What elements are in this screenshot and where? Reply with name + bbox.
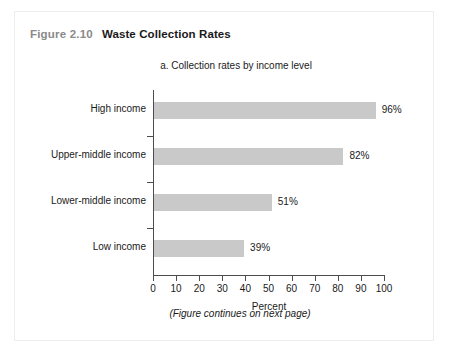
figure-continues-note: (Figure continues on next page)	[15, 308, 434, 319]
bar-chart: High income96%Upper-middle income82%Lowe…	[15, 82, 434, 287]
figure-title: Waste Collection Rates	[102, 28, 231, 40]
bar-value-label: 39%	[250, 242, 270, 253]
bar-row: Low income39%	[15, 228, 434, 274]
bar	[154, 240, 244, 257]
x-axis-tick	[292, 276, 293, 281]
bar	[154, 194, 272, 211]
panel-subtitle: a. Collection rates by income level	[15, 60, 434, 71]
bar-value-label: 96%	[382, 104, 402, 115]
x-axis-tick-label: 100	[369, 283, 399, 294]
x-axis-tick	[199, 276, 200, 281]
x-axis-tick	[315, 276, 316, 281]
bar-row: Lower-middle income51%	[15, 182, 434, 228]
bar-category-label: High income	[15, 103, 146, 114]
bar-value-label: 82%	[349, 150, 369, 161]
bar-category-label: Lower-middle income	[15, 195, 146, 206]
x-axis-tick	[245, 276, 246, 281]
bar-row: High income96%	[15, 90, 434, 136]
bar-category-label: Low income	[15, 241, 146, 252]
bar-value-label: 51%	[278, 196, 298, 207]
y-axis-tick	[147, 228, 153, 229]
x-axis-tick	[338, 276, 339, 281]
x-axis-tick	[384, 276, 385, 281]
bar	[154, 148, 343, 165]
figure-number: Figure 2.10	[30, 28, 93, 40]
figure-card: Figure 2.10Waste Collection Rates a. Col…	[14, 11, 434, 341]
x-axis-tick	[153, 276, 154, 281]
bar-row: Upper-middle income82%	[15, 136, 434, 182]
x-axis-tick	[222, 276, 223, 281]
x-axis-tick	[269, 276, 270, 281]
figure-heading: Figure 2.10Waste Collection Rates	[30, 25, 231, 41]
x-axis-tick	[361, 276, 362, 281]
bar-category-label: Upper-middle income	[15, 149, 146, 160]
x-axis-tick	[176, 276, 177, 281]
bar	[154, 102, 376, 119]
y-axis-tick	[147, 182, 153, 183]
y-axis-tick	[147, 136, 153, 137]
